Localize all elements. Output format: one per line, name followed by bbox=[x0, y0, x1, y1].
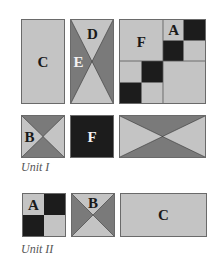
label-c: C bbox=[158, 208, 169, 223]
hourglass-horizontal-shape bbox=[120, 116, 205, 157]
label-a: A bbox=[28, 197, 39, 212]
unit1-block-c: C bbox=[21, 19, 65, 104]
label-d: D bbox=[87, 27, 98, 42]
label-a-small: A bbox=[168, 22, 179, 37]
unit1-caption: Unit I bbox=[21, 160, 49, 175]
label-c: C bbox=[38, 54, 49, 69]
unit1-block-grid: F A bbox=[119, 19, 206, 104]
unit2-block-a: A bbox=[22, 193, 66, 237]
unit2-caption: Unit II bbox=[21, 242, 53, 254]
unit1-block-b: B bbox=[21, 115, 65, 158]
label-b: B bbox=[25, 130, 35, 145]
label-f-large: F bbox=[137, 35, 146, 50]
label-b: B bbox=[88, 196, 98, 211]
unit1-block-f: F bbox=[70, 115, 114, 158]
grid-shape bbox=[120, 20, 205, 103]
unit1-block-hourglass-horizontal bbox=[119, 115, 206, 158]
unit2-block-b: B bbox=[71, 193, 115, 237]
unit2-block-c: C bbox=[120, 193, 207, 237]
label-e: E bbox=[74, 54, 84, 69]
label-f: F bbox=[87, 130, 96, 145]
unit1-block-de-hourglass: D E bbox=[70, 19, 114, 104]
